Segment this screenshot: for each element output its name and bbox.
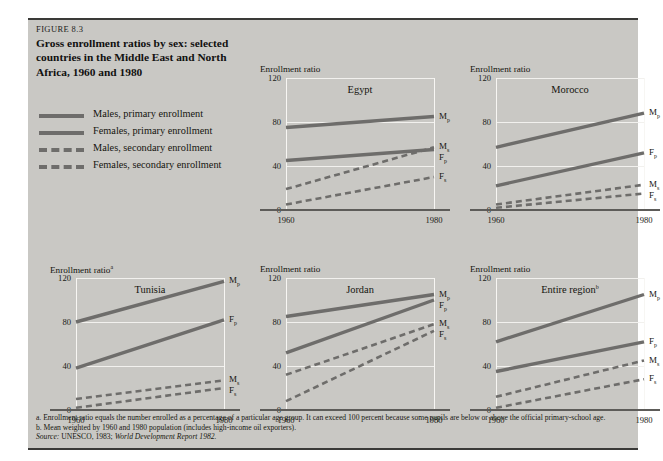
series-end-label-subscript: p <box>447 294 450 300</box>
series-end-label-mp: Mp <box>229 275 240 287</box>
legend-label: Females, primary enrollment <box>93 125 212 136</box>
series-line-ms <box>76 380 224 399</box>
series-lines <box>286 78 434 210</box>
y-axis-tick-label: 80 <box>272 317 281 327</box>
series-line-fp <box>496 153 644 186</box>
series-end-label-subscript: s <box>444 177 446 183</box>
note-a: a. Enrollment ratio equals the number en… <box>36 413 630 423</box>
y-axis-tick-label: 120 <box>268 273 281 283</box>
series-end-label-fs: Fs <box>229 385 236 397</box>
series-line-fs <box>496 379 644 408</box>
series-lines <box>76 278 224 410</box>
x-axis-tick-label: 1960 <box>487 215 504 225</box>
legend-item-fs: Females, secondary enrollment <box>36 159 256 176</box>
plot-area: 0408012019601980Entire regionbMpFpMsFs <box>496 278 644 410</box>
series-end-label-ms: Ms <box>649 355 659 367</box>
series-end-label-text: M <box>649 179 657 189</box>
note-b: b. Mean weighted by 1960 and 1980 popula… <box>36 423 630 433</box>
series-lines <box>496 78 644 210</box>
series-line-fs <box>286 177 434 205</box>
series-end-label-text: M <box>439 318 447 328</box>
series-end-label-subscript: s <box>237 380 239 386</box>
legend-item-ms: Males, secondary enrollment <box>36 142 256 159</box>
plot-vertical-rule <box>434 278 435 410</box>
series-end-label-subscript: s <box>654 379 656 385</box>
series-line-mp <box>496 113 644 147</box>
series-end-label-subscript: s <box>657 360 659 366</box>
series-end-label-mp: Mp <box>439 111 450 123</box>
series-end-label-fs: Fs <box>649 373 656 385</box>
series-lines <box>496 278 644 410</box>
series-end-label-text: M <box>439 141 447 151</box>
source-italic: World Development Report 1982. <box>115 432 217 441</box>
series-end-label-text: M <box>229 275 237 285</box>
plot-vertical-rule <box>644 278 645 410</box>
x-axis-tick-label: 1980 <box>635 215 652 225</box>
y-axis-tick-label: 40 <box>482 161 491 171</box>
series-end-label-fs: Fs <box>439 329 446 341</box>
plot-area: 0408012019601980JordanMpFpMsFs <box>286 278 434 410</box>
series-line-mp <box>496 295 644 342</box>
series-line-fp <box>76 320 224 368</box>
y-axis-tick-label: 120 <box>268 73 281 83</box>
series-end-label-subscript: s <box>657 185 659 191</box>
series-end-label-subscript: s <box>234 391 236 397</box>
y-axis-tick-label: 40 <box>272 361 281 371</box>
series-end-label-fp: Fp <box>229 314 237 326</box>
series-end-label-subscript: p <box>444 158 447 164</box>
legend-swatch-ms-icon <box>39 148 84 152</box>
x-axis-tick-label: 1980 <box>425 215 442 225</box>
y-axis-tick-label: 80 <box>482 317 491 327</box>
legend-label: Females, secondary enrollment <box>93 159 221 170</box>
series-end-label-fp: Fp <box>439 300 447 312</box>
series-line-fs <box>76 388 224 408</box>
y-axis-tick-label: 120 <box>478 273 491 283</box>
legend-swatch-mp-icon <box>39 114 84 118</box>
series-end-label-subscript: p <box>657 294 660 300</box>
series-end-label-mp: Mp <box>649 289 660 301</box>
series-end-label-text: M <box>649 355 657 365</box>
y-axis-tick-label: 120 <box>58 273 71 283</box>
series-line-fp <box>286 300 434 353</box>
series-end-label-subscript: p <box>444 305 447 311</box>
source-text: UNESCO, 1983; <box>61 432 112 441</box>
series-end-label-subscript: s <box>654 196 656 202</box>
series-end-label-text: M <box>649 289 657 299</box>
series-end-label-fs: Fs <box>649 190 656 202</box>
y-axis-tick-label: 120 <box>478 73 491 83</box>
x-axis-tick-label: 1960 <box>277 215 294 225</box>
series-line-fp <box>286 150 434 161</box>
series-end-label-fp: Fp <box>649 336 657 348</box>
plot-area: 0408012019601980MoroccoMpFpMsFs <box>496 78 644 210</box>
series-line-mp <box>286 295 434 317</box>
y-axis-tick-label: 40 <box>482 361 491 371</box>
series-end-label-subscript: p <box>654 342 657 348</box>
plot-area: 0408012019601980TunisiaMpFpMsFs <box>76 278 224 410</box>
y-axis-caption-superscript: a <box>110 264 113 270</box>
source-label: Source: <box>36 432 59 441</box>
y-axis-tick-label: 40 <box>272 161 281 171</box>
series-end-label-text: M <box>439 111 447 121</box>
legend: Males, primary enrollmentFemales, primar… <box>36 108 256 176</box>
series-end-label-subscript: p <box>657 113 660 119</box>
series-end-label-fp: Fp <box>649 147 657 159</box>
legend-swatch-fp-icon <box>39 131 84 135</box>
plot-vertical-rule <box>224 278 225 410</box>
chart-egypt: Enrollment ratio0408012019601980EgyptMpM… <box>260 64 460 239</box>
series-end-label-mp: Mp <box>649 107 660 119</box>
legend-item-mp: Males, primary enrollment <box>36 108 256 125</box>
series-end-label-text: M <box>649 107 657 117</box>
y-axis-tick-label: 80 <box>482 117 491 127</box>
series-end-label-text: M <box>229 374 237 384</box>
legend-item-fp: Females, primary enrollment <box>36 125 256 142</box>
series-end-label-subscript: p <box>234 320 237 326</box>
series-end-label-fs: Fs <box>439 171 446 183</box>
legend-label: Males, primary enrollment <box>93 108 203 119</box>
figure-title: Gross enrollment ratios by sex: selected… <box>36 36 252 79</box>
legend-swatch-fs-icon <box>39 165 84 169</box>
figure-notes: a. Enrollment ratio equals the number en… <box>36 413 630 442</box>
legend-label: Males, secondary enrollment <box>93 142 212 153</box>
series-end-label-subscript: p <box>447 116 450 122</box>
series-end-label-subscript: s <box>447 147 449 153</box>
figure-panel: FIGURE 8.3 Gross enrollment ratios by se… <box>28 18 638 450</box>
